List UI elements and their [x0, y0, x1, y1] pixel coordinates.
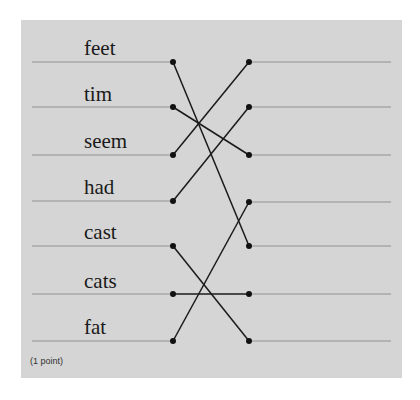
matching-canvas — [0, 0, 420, 400]
word-fat: fat — [84, 317, 106, 338]
right-dot-2[interactable] — [246, 104, 252, 110]
word-tim: tim — [84, 84, 112, 105]
right-dot-1[interactable] — [246, 59, 252, 65]
left-dot-4[interactable] — [170, 198, 176, 204]
points-label: (1 point) — [30, 356, 63, 366]
connector-had[interactable] — [173, 107, 249, 201]
left-dot-5[interactable] — [170, 243, 176, 249]
word-cast: cast — [84, 222, 117, 243]
left-dot-3[interactable] — [170, 152, 176, 158]
connector-seem[interactable] — [173, 62, 249, 155]
right-dot-7[interactable] — [246, 338, 252, 344]
word-had: had — [84, 177, 114, 198]
right-dot-6[interactable] — [246, 291, 252, 297]
right-dot-5[interactable] — [246, 243, 252, 249]
word-seem: seem — [84, 131, 127, 152]
right-dot-3[interactable] — [246, 152, 252, 158]
word-cats: cats — [84, 271, 117, 292]
right-dot-4[interactable] — [246, 199, 252, 205]
word-feet: feet — [84, 38, 115, 59]
left-dot-2[interactable] — [170, 104, 176, 110]
connector-fat[interactable] — [173, 202, 249, 341]
left-dot-6[interactable] — [170, 291, 176, 297]
left-dot-1[interactable] — [170, 59, 176, 65]
connector-tim[interactable] — [173, 107, 249, 155]
left-dot-7[interactable] — [170, 338, 176, 344]
